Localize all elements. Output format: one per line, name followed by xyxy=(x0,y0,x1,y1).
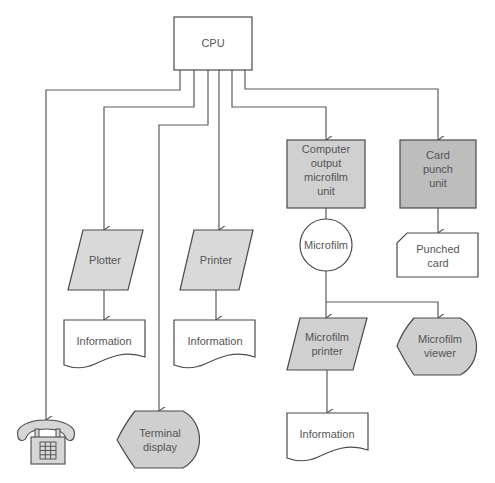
terminal-display-label-line1: Terminal xyxy=(139,427,181,439)
telephone-icon[interactable] xyxy=(17,420,74,464)
edge-cpu-com xyxy=(232,70,326,140)
microfilm-viewer-label-line2: viewer xyxy=(424,347,456,359)
microfilm-label: Microfilm xyxy=(304,239,348,251)
com-node[interactable]: Computer output microfilm unit xyxy=(287,140,365,208)
info-printer-label: Information xyxy=(187,335,242,347)
card-punch-label-line3: unit xyxy=(429,177,447,189)
card-punch-node[interactable]: Card punch unit xyxy=(400,140,476,208)
cpu-node[interactable]: CPU xyxy=(174,17,252,70)
microfilm-node[interactable]: Microfilm xyxy=(300,219,352,271)
microfilm-printer-label-line1: Microfilm xyxy=(305,331,349,343)
edge-cpu-plotter xyxy=(104,70,194,230)
punched-card-node[interactable]: Punched card xyxy=(397,233,478,277)
info-microfilm-node[interactable]: Information xyxy=(287,413,368,461)
edge-microfilm-viewer xyxy=(326,302,438,318)
punched-card-label-line1: Punched xyxy=(416,243,459,255)
card-punch-label-line1: Card xyxy=(426,149,450,161)
com-label-line4: unit xyxy=(317,185,335,197)
microfilm-viewer-node[interactable]: Microfilm viewer xyxy=(397,318,477,375)
terminal-display-node[interactable]: Terminal display xyxy=(117,411,200,468)
flowchart-diagram: CPU Plotter Printer Information Informat… xyxy=(0,0,495,483)
plotter-label: Plotter xyxy=(89,254,121,266)
card-punch-label-line2: punch xyxy=(423,163,453,175)
microfilm-printer-node[interactable]: Microfilm printer xyxy=(287,318,367,370)
microfilm-printer-label-line2: printer xyxy=(311,345,343,357)
plotter-node[interactable]: Plotter xyxy=(68,230,143,290)
com-label-line3: microfilm xyxy=(304,171,348,183)
com-label-line2: output xyxy=(311,157,342,169)
info-microfilm-label: Information xyxy=(299,428,354,440)
terminal-display-label-line2: display xyxy=(143,441,178,453)
info-printer-node[interactable]: Information xyxy=(174,320,255,368)
info-plotter-node[interactable]: Information xyxy=(64,320,145,368)
edge-cpu-cardpunch xyxy=(245,70,438,140)
microfilm-viewer-label-line1: Microfilm xyxy=(418,333,462,345)
cpu-label: CPU xyxy=(201,37,224,49)
printer-label: Printer xyxy=(200,254,233,266)
com-label-line1: Computer xyxy=(302,143,351,155)
printer-node[interactable]: Printer xyxy=(180,230,253,290)
info-plotter-label: Information xyxy=(76,335,131,347)
punched-card-label-line2: card xyxy=(427,257,448,269)
